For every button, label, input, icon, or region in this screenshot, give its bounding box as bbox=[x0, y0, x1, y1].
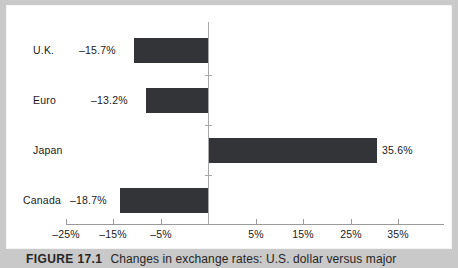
category-label-japan: Japan bbox=[33, 144, 63, 156]
bar-canada bbox=[120, 188, 208, 213]
figure-caption-body: Changes in exchange rates: U.S. dollar v… bbox=[110, 252, 396, 266]
category-label-canada: Canada bbox=[23, 194, 61, 206]
zero-axis-tick bbox=[205, 175, 212, 176]
x-axis-line bbox=[66, 224, 444, 225]
x-axis-tick bbox=[303, 219, 304, 224]
x-axis-tick bbox=[398, 219, 399, 224]
figure-caption-line: FIGURE 17.1Changes in exchange rates: U.… bbox=[26, 252, 396, 266]
figure-caption-number: FIGURE 17.1 bbox=[26, 252, 102, 266]
figure-caption: FIGURE 17.1Changes in exchange rates: U.… bbox=[0, 252, 458, 268]
bar-chart: –25% –15% –5% 5% 15% 25% 35% U.K. –15.7%… bbox=[6, 5, 452, 249]
x-axis-tick-label: 5% bbox=[248, 228, 264, 240]
figure-container: –25% –15% –5% 5% 15% 25% 35% U.K. –15.7%… bbox=[0, 0, 458, 268]
bar-euro bbox=[146, 88, 208, 113]
x-axis-tick bbox=[351, 219, 352, 224]
x-axis-tick-label: –15% bbox=[99, 228, 127, 240]
value-label-euro: –13.2% bbox=[91, 94, 128, 106]
zero-axis-tick bbox=[205, 125, 212, 126]
x-axis-tick bbox=[256, 219, 257, 224]
x-axis-tick-label: –25% bbox=[52, 228, 80, 240]
category-label-euro: Euro bbox=[33, 94, 56, 106]
bar-uk bbox=[134, 38, 208, 63]
value-label-japan: 35.6% bbox=[382, 144, 413, 156]
category-label-uk: U.K. bbox=[33, 44, 54, 56]
x-axis-tick-label: –5% bbox=[150, 228, 172, 240]
zero-axis-tick bbox=[205, 75, 212, 76]
value-label-canada: –18.7% bbox=[70, 194, 107, 206]
x-axis-tick-label: 25% bbox=[340, 228, 362, 240]
x-axis-tick bbox=[66, 219, 67, 224]
x-axis-tick-label: 35% bbox=[387, 228, 409, 240]
zero-axis-line bbox=[208, 22, 209, 225]
x-axis-tick-label: 15% bbox=[292, 228, 314, 240]
value-label-uk: –15.7% bbox=[79, 44, 116, 56]
bar-japan bbox=[209, 138, 377, 163]
x-axis-tick bbox=[113, 219, 114, 224]
x-axis-tick bbox=[161, 219, 162, 224]
